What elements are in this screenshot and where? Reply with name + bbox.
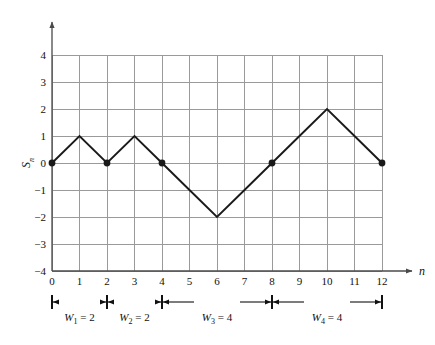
span-arrow-right bbox=[155, 299, 161, 304]
random-walk-chart: 012345678910111243210−1−2−3−4W1 = 2W2 = … bbox=[0, 0, 435, 345]
x-tick-label: 8 bbox=[269, 276, 275, 287]
span-brackets bbox=[52, 295, 382, 309]
y-tick-label: 2 bbox=[41, 104, 47, 115]
y-axis-label: Sn bbox=[20, 158, 35, 168]
y-tick-label: −4 bbox=[34, 266, 46, 277]
data-point-marker bbox=[159, 160, 166, 167]
span-arrow-right bbox=[265, 299, 271, 304]
axis-lines bbox=[52, 22, 412, 271]
y-axis-label-subscript: n bbox=[27, 158, 36, 162]
x-axis-label: n bbox=[419, 265, 425, 277]
y-tick-label: −3 bbox=[34, 239, 46, 250]
y-axis-label-symbol: S bbox=[19, 162, 33, 168]
data-point-marker bbox=[104, 160, 111, 167]
x-tick-label: 11 bbox=[349, 276, 360, 287]
y-tick-label: 3 bbox=[41, 77, 47, 88]
y-tick-label: −2 bbox=[34, 212, 46, 223]
y-tick-label: −1 bbox=[34, 185, 46, 196]
span-arrow-left bbox=[108, 299, 114, 304]
data-point-marker bbox=[379, 160, 386, 167]
x-tick-label: 7 bbox=[242, 276, 248, 287]
span-arrow-right bbox=[375, 299, 381, 304]
x-tick-label: 9 bbox=[297, 276, 303, 287]
x-tick-label: 3 bbox=[132, 276, 138, 287]
span-label-w3: W3 = 4 bbox=[202, 312, 232, 326]
x-tick-label: 5 bbox=[187, 276, 193, 287]
data-point-marker bbox=[49, 160, 56, 167]
x-tick-label: 1 bbox=[77, 276, 83, 287]
chart-canvas bbox=[0, 0, 435, 345]
span-label-w1: W1 = 2 bbox=[64, 312, 94, 326]
x-tick-label: 4 bbox=[159, 276, 165, 287]
grid-lines bbox=[52, 55, 382, 271]
y-tick-label: 1 bbox=[41, 131, 47, 142]
span-arrow-right bbox=[100, 299, 106, 304]
x-tick-label: 12 bbox=[377, 276, 388, 287]
y-tick-label: 4 bbox=[41, 50, 47, 61]
span-label-w4: W4 = 4 bbox=[312, 312, 342, 326]
span-arrow-left bbox=[163, 299, 169, 304]
x-tick-label: 6 bbox=[214, 276, 220, 287]
y-tick-label: 0 bbox=[41, 158, 47, 169]
span-arrow-left bbox=[53, 299, 59, 304]
x-tick-label: 0 bbox=[49, 276, 55, 287]
span-arrow-left bbox=[273, 299, 279, 304]
x-tick-label: 2 bbox=[104, 276, 110, 287]
x-tick-label: 10 bbox=[322, 276, 333, 287]
data-point-marker bbox=[269, 160, 276, 167]
span-label-w2: W2 = 2 bbox=[119, 312, 149, 326]
